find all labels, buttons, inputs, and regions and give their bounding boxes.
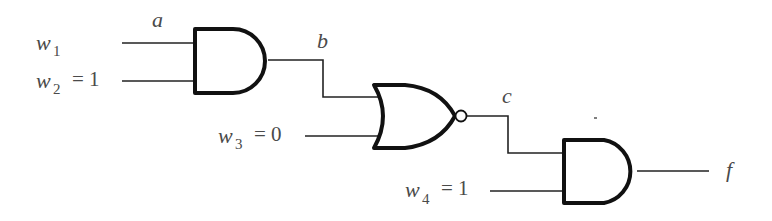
svg-text:1: 1 [53, 43, 61, 59]
input-label-w1: w 1 [36, 30, 61, 59]
svg-text:3: 3 [235, 136, 243, 152]
and-gate-1 [195, 29, 265, 93]
signal-label-c: c [502, 83, 512, 108]
svg-text:w: w [405, 177, 420, 202]
wire-b [268, 60, 380, 97]
inversion-bubble [456, 111, 467, 122]
signal-label-b: b [317, 28, 328, 53]
input-label-w4: w 4 = 1 [405, 176, 469, 207]
signal-label-a: a [152, 7, 163, 32]
input-label-w2: w 2 = 1 [36, 67, 100, 97]
logic-circuit-diagram: w 1 w 2 = 1 w 3 = 0 w 4 = 1 a b c f [0, 0, 772, 221]
wire-c [467, 116, 564, 153]
svg-text:2: 2 [53, 81, 61, 97]
svg-text:w: w [36, 30, 51, 55]
svg-text:= 1: = 1 [441, 176, 469, 200]
svg-text:= 1: = 1 [72, 67, 100, 91]
svg-text:w: w [218, 123, 233, 148]
svg-text:4: 4 [422, 191, 430, 207]
svg-text:= 0: = 0 [254, 122, 282, 146]
svg-text:w: w [36, 68, 51, 93]
nor-gate [374, 85, 467, 148]
and-gate-2 [564, 140, 630, 203]
output-label-f: f [726, 157, 735, 182]
input-label-w3: w 3 = 0 [218, 122, 282, 152]
